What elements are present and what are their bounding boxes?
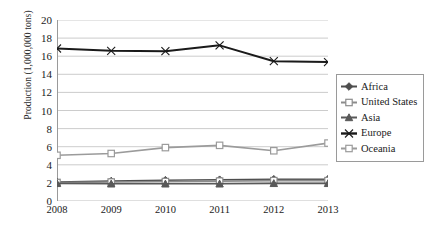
legend-marker-icon (341, 143, 357, 154)
legend-item-label: Asia (361, 113, 380, 124)
x-axis-tick-label: 2008 (47, 205, 68, 216)
y-axis-tick-label: 16 (41, 51, 52, 62)
legend-marker-icon (341, 81, 357, 92)
series-europe (57, 41, 328, 66)
y-axis-tick-label: 18 (41, 33, 52, 44)
data-point-marker (271, 148, 277, 154)
y-axis-tick-label: 12 (41, 87, 52, 98)
x-axis-tick-label: 2012 (263, 205, 284, 216)
legend-marker-icon (341, 128, 357, 139)
legend-item-label: Oceania (361, 144, 395, 155)
data-point-marker (346, 146, 352, 152)
legend-item-united-states[interactable]: United States (341, 95, 417, 111)
data-point-marker (346, 99, 352, 105)
data-point-marker (57, 152, 60, 158)
plot-svg (57, 20, 328, 201)
series-line (57, 143, 328, 155)
x-axis-tick-label: 2009 (101, 205, 122, 216)
y-axis-tick-label: 20 (41, 15, 52, 26)
legend-item-oceania[interactable]: Oceania (341, 141, 417, 157)
legend-item-label: Europe (361, 128, 391, 139)
legend-item-asia[interactable]: Asia (341, 110, 417, 126)
data-point-marker (325, 140, 328, 146)
legend-item-europe[interactable]: Europe (341, 126, 417, 142)
data-point-marker (162, 144, 168, 150)
y-axis-tick-label: 6 (47, 141, 53, 152)
legend-marker-icon (341, 97, 357, 108)
y-axis-tick-label: 4 (47, 159, 53, 170)
y-axis-tick-label: 14 (41, 69, 52, 80)
y-axis-tick-label: 10 (41, 105, 52, 116)
y-axis-tick-label: 8 (47, 123, 53, 134)
series-line (57, 45, 328, 62)
x-axis-tick-label: 2011 (209, 205, 230, 216)
x-axis-tick-label: 2013 (318, 205, 339, 216)
y-axis-tick-label: 2 (47, 177, 53, 188)
data-point-marker (108, 150, 114, 156)
legend-item-label: Africa (361, 82, 388, 93)
legend-item-africa[interactable]: Africa (341, 79, 417, 95)
legend-marker-icon (341, 112, 357, 123)
data-point-marker (216, 142, 222, 148)
x-axis-tick-label: 2010 (155, 205, 176, 216)
data-point-marker (345, 83, 353, 91)
series-oceania (57, 140, 328, 159)
legend-item-label: United States (361, 97, 417, 108)
plot-area: 2018161412108642020082009201020112012201… (57, 20, 328, 201)
line-chart: Production (1,000,000 tons) 201816141210… (0, 0, 435, 235)
y-axis-title: Production (1,000,000 tons) (23, 0, 33, 145)
chart-legend: AfricaUnited StatesAsiaEuropeOceania (336, 74, 424, 162)
